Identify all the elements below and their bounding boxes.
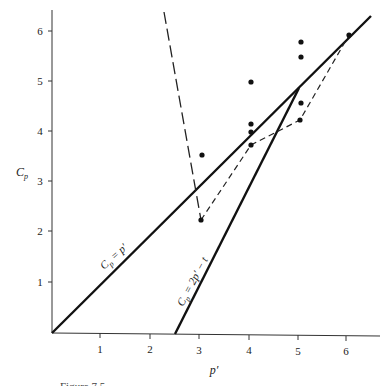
data-point <box>298 39 303 44</box>
data-point <box>248 142 253 147</box>
y-tick-label: 5 <box>37 75 43 87</box>
x-tick-label: 6 <box>343 345 349 357</box>
chart: 6 5 4 3 2 1 1 2 3 4 5 6 p′ Cp <box>0 0 388 386</box>
x-tick-label: 3 <box>196 344 202 356</box>
data-point <box>297 117 302 122</box>
data-point <box>298 54 303 59</box>
data-point <box>199 152 204 157</box>
y-tick-label: 4 <box>37 125 43 137</box>
x-tick-label: 4 <box>246 344 252 356</box>
x-axis <box>52 333 380 336</box>
line-cp-equals-p <box>52 16 371 333</box>
data-point <box>248 121 253 126</box>
data-point <box>198 217 203 222</box>
y-tick-label: 1 <box>37 276 43 288</box>
data-points <box>198 32 351 222</box>
data-point <box>346 32 351 37</box>
y-tick-label: 3 <box>37 175 43 187</box>
line-cp-equals-2p-minus-t <box>175 88 299 334</box>
y-tick-label: 2 <box>37 225 43 237</box>
y-ticks: 6 5 4 3 2 1 <box>37 25 52 288</box>
x-axis-label: p′ <box>209 363 219 377</box>
data-point <box>248 79 253 84</box>
x-ticks: 1 2 3 4 5 6 <box>97 333 349 357</box>
short-dashed-polyline <box>201 35 349 220</box>
y-tick-label: 6 <box>37 25 43 37</box>
data-point <box>248 129 253 134</box>
x-tick-label: 5 <box>295 345 301 357</box>
y-axis-label: Cp <box>16 165 28 181</box>
x-tick-label: 1 <box>97 343 103 355</box>
x-tick-label: 2 <box>147 343 153 355</box>
figure-caption: Figure 7.5 <box>60 380 105 386</box>
line-label-cp-equals-p: Cp = p′ <box>97 241 131 274</box>
long-dashed-line <box>164 12 201 220</box>
line-label-cp-equals-2p-minus-t: Cp = 2p′ − t <box>174 254 213 309</box>
data-point <box>298 100 303 105</box>
